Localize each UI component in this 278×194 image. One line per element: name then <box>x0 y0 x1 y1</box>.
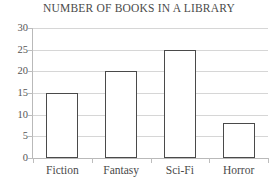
y-axis-tick-mark <box>28 28 33 29</box>
y-axis-tick-mark <box>28 136 33 137</box>
y-axis-tick-label: 5 <box>2 131 28 142</box>
bar-fiction <box>46 93 78 158</box>
bar-horror <box>223 123 255 158</box>
bar-chart: NUMBER OF BOOKS IN A LIBRARY 05101520253… <box>0 0 278 194</box>
y-axis-tick-label: 20 <box>2 66 28 77</box>
chart-title: NUMBER OF BOOKS IN A LIBRARY <box>0 2 278 14</box>
gridline <box>33 50 268 51</box>
y-axis-tick-label: 15 <box>2 88 28 99</box>
x-axis-tick-label: Fiction <box>33 164 92 178</box>
y-axis-tick-label: 0 <box>2 153 28 164</box>
y-axis-tick-mark <box>28 71 33 72</box>
gridline <box>33 28 268 29</box>
x-axis-tick-mark <box>268 158 269 163</box>
y-axis-tick-label: 30 <box>2 23 28 34</box>
x-axis-tick-mark <box>151 158 152 163</box>
y-axis-tick-mark <box>28 93 33 94</box>
x-axis-tick-mark <box>209 158 210 163</box>
y-axis-tick-label: 10 <box>2 110 28 121</box>
x-axis-tick-label: Sci-Fi <box>151 164 210 178</box>
x-axis-tick-label: Fantasy <box>92 164 151 178</box>
y-axis-tick-mark <box>28 50 33 51</box>
x-axis-tick-mark <box>92 158 93 163</box>
y-axis-labels: 051015202530 <box>0 0 28 194</box>
bar-fantasy <box>105 71 137 158</box>
gridline <box>33 71 268 72</box>
x-axis-tick-mark <box>33 158 34 163</box>
y-axis-tick-mark <box>28 115 33 116</box>
bar-sci-fi <box>164 50 196 158</box>
plot-area <box>33 28 268 158</box>
x-axis-tick-label: Horror <box>209 164 268 178</box>
y-axis-tick-label: 25 <box>2 45 28 56</box>
